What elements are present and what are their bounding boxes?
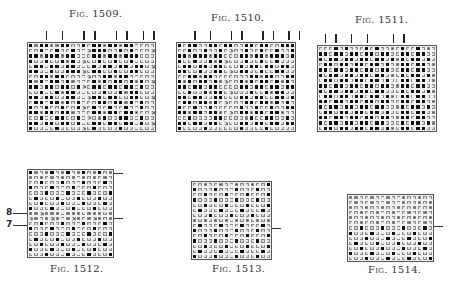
caption-number: 1510. <box>234 12 264 23</box>
fig-1514-caption: Fig. 1514. <box>368 264 421 275</box>
top-tick-mark <box>335 34 337 43</box>
top-tick-mark <box>325 34 327 43</box>
row-label-8: 8 <box>6 207 12 217</box>
caption-number: 1514. <box>391 264 421 275</box>
top-tick-mark <box>116 31 118 40</box>
fig-1511-weave-grid <box>317 45 437 132</box>
row-7-pointer <box>13 225 27 226</box>
weave-cell-open-circle <box>290 126 295 131</box>
caption-number: 1511. <box>378 14 408 25</box>
weave-cell-filled-square <box>108 252 113 257</box>
fig-1512-caption: Fig. 1512. <box>50 263 103 274</box>
fig-1510-weave-grid <box>176 42 296 132</box>
top-tick-mark <box>94 31 96 40</box>
caption-number: 1509. <box>92 8 122 19</box>
caption-prefix: Fig. <box>69 8 89 19</box>
row-label-7: 7 <box>6 219 12 229</box>
caption-prefix: Fig. <box>355 14 375 25</box>
top-tick-mark <box>210 31 212 40</box>
top-tick-mark <box>351 34 353 43</box>
caption-number: 1512. <box>73 263 103 274</box>
top-tick-mark <box>299 31 301 40</box>
top-tick-mark <box>83 31 85 40</box>
fig-1509-weave-grid <box>27 42 156 132</box>
caption-prefix: Fig. <box>50 263 70 274</box>
top-tick-mark <box>288 31 290 40</box>
top-tick-mark <box>262 31 264 40</box>
weave-cell-filled-square <box>428 256 433 261</box>
fig-1514-weave-grid <box>347 194 434 262</box>
fig-1512-right-tick-top <box>114 173 123 174</box>
fig-1513-weave-grid <box>191 181 272 260</box>
weave-cell-open-circle <box>266 254 271 259</box>
fig-1510-caption: Fig. 1510. <box>211 12 264 23</box>
top-tick-mark <box>46 31 48 40</box>
top-tick-mark <box>273 31 275 40</box>
row-8-pointer <box>13 213 27 214</box>
top-tick-mark <box>393 34 395 43</box>
top-tick-mark <box>241 31 243 40</box>
caption-prefix: Fig. <box>211 12 231 23</box>
weave-cell-open-circle <box>150 126 155 131</box>
fig-1514-right-tick <box>434 226 443 227</box>
top-tick-mark <box>153 31 155 40</box>
fig-1511-caption: Fig. 1511. <box>355 14 408 25</box>
fig-1513-right-tick <box>272 228 281 229</box>
weave-cell-open-circle <box>431 126 436 131</box>
top-tick-mark <box>62 31 64 40</box>
top-tick-mark <box>403 34 405 43</box>
fig-1509-caption: Fig. 1509. <box>69 8 122 19</box>
top-tick-mark <box>231 31 233 40</box>
fig-1513-caption: Fig. 1513. <box>212 263 265 274</box>
top-tick-mark <box>143 31 145 40</box>
top-tick-mark <box>126 31 128 40</box>
caption-number: 1513. <box>235 263 265 274</box>
caption-prefix: Fig. <box>212 263 232 274</box>
fig-1512-right-tick-middle <box>114 218 123 219</box>
fig-1512-weave-grid <box>27 169 114 258</box>
top-tick-mark <box>367 34 369 43</box>
caption-prefix: Fig. <box>368 264 388 275</box>
top-tick-mark <box>194 31 196 40</box>
